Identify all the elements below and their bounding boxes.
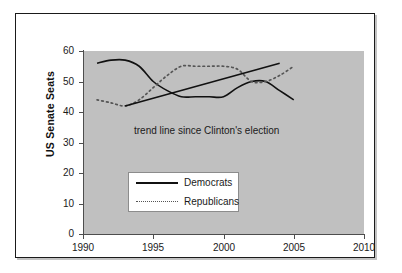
- x-tick-mark: [294, 235, 295, 239]
- y-tick-mark: [79, 204, 83, 205]
- y-tick-label: 0: [50, 229, 74, 239]
- legend-item-democrats: Democrats: [129, 173, 240, 193]
- chart-legend: Democrats Republicans: [128, 172, 239, 212]
- legend-swatch-dotted-icon: [136, 201, 178, 202]
- x-tick-mark: [224, 235, 225, 239]
- y-axis-line: [83, 50, 84, 235]
- y-tick-label: 10: [50, 199, 74, 209]
- chart-page: 0102030405060 19901995200020052010 US Se…: [0, 0, 402, 273]
- figure-frame: 0102030405060 19901995200020052010 US Se…: [15, 13, 375, 258]
- series-line-trend-line-since-clinton-s-election: [125, 63, 280, 106]
- y-axis-title: US Senate Seats: [44, 44, 56, 184]
- legend-label-democrats: Democrats: [184, 177, 232, 188]
- y-tick-mark: [79, 51, 83, 52]
- legend-item-republicans: Republicans: [129, 192, 240, 212]
- x-tick-label: 1990: [63, 242, 103, 253]
- x-tick-mark: [83, 235, 84, 239]
- y-tick-mark: [79, 112, 83, 113]
- x-tick-label: 2000: [204, 242, 244, 253]
- x-tick-label: 2010: [344, 242, 384, 253]
- y-tick-mark: [79, 82, 83, 83]
- x-tick-label: 2005: [274, 242, 314, 253]
- legend-label-republicans: Republicans: [184, 196, 239, 207]
- x-tick-label: 1995: [133, 242, 173, 253]
- y-tick-mark: [79, 143, 83, 144]
- legend-swatch-solid-icon: [136, 182, 178, 184]
- trend-line-annotation: trend line since Clinton's election: [134, 125, 279, 136]
- x-tick-mark: [153, 235, 154, 239]
- y-tick-mark: [79, 173, 83, 174]
- x-tick-mark: [364, 235, 365, 239]
- series-group: [97, 60, 294, 106]
